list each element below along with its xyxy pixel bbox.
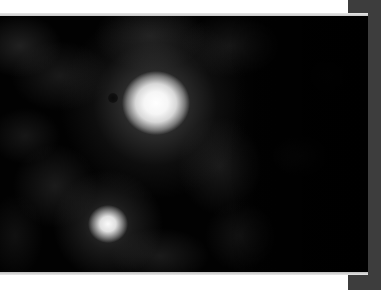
page <box>0 0 381 290</box>
dark-sky-region <box>0 16 368 272</box>
bottom-border <box>0 272 368 275</box>
astronomy-image <box>0 16 368 272</box>
